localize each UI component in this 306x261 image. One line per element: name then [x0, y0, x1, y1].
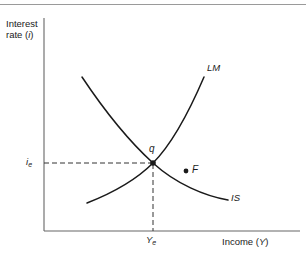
y-axis-tick-label-ie: ie: [26, 156, 32, 168]
y-axis-label-line2-prefix: rate (: [6, 29, 28, 40]
lm-curve-label: LM: [207, 62, 220, 73]
equilibrium-point-marker: [150, 160, 156, 166]
x-axis-label-suffix: ): [265, 236, 268, 247]
isLM-figure: Interest rate (i) Income (Y) LM IS q F i…: [0, 0, 306, 261]
y-axis-label-line1: Interest: [6, 18, 38, 29]
is-curve-label: IS: [231, 192, 240, 203]
is-curve: [82, 77, 228, 200]
x-axis-label: Income (Y): [222, 236, 268, 247]
x-axis-tick-label-ye: Ye: [146, 234, 156, 246]
y-tick-subscript: e: [28, 161, 32, 168]
point-f-marker: [184, 169, 189, 174]
equilibrium-point-label: q: [149, 143, 155, 154]
y-axis-label-line2-suffix: ): [30, 29, 33, 40]
lm-curve: [87, 77, 204, 203]
x-tick-subscript: e: [152, 239, 156, 246]
y-axis-label: Interest rate (i): [6, 18, 38, 40]
x-axis-label-prefix: Income (: [222, 236, 259, 247]
plot-canvas: [0, 0, 306, 261]
point-f-label: F: [192, 164, 198, 175]
